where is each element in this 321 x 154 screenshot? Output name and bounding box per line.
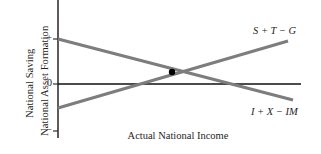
curve-label-investment: I + X − IM	[251, 106, 298, 117]
economics-chart-figure: National Saving National Asset Formation…	[0, 0, 321, 154]
curve-label-saving: S + T − G	[253, 25, 296, 36]
y-tick-label-zero: 0	[38, 77, 52, 88]
y-axis-title-line-1: National Saving	[24, 49, 35, 118]
y-tick-label-plus: +	[38, 32, 52, 43]
x-axis-title: Actual National Income	[98, 130, 258, 141]
curve-investment-line	[58, 39, 293, 100]
y-tick-label-minus: −	[38, 124, 52, 135]
equilibrium-point-marker	[169, 69, 175, 75]
